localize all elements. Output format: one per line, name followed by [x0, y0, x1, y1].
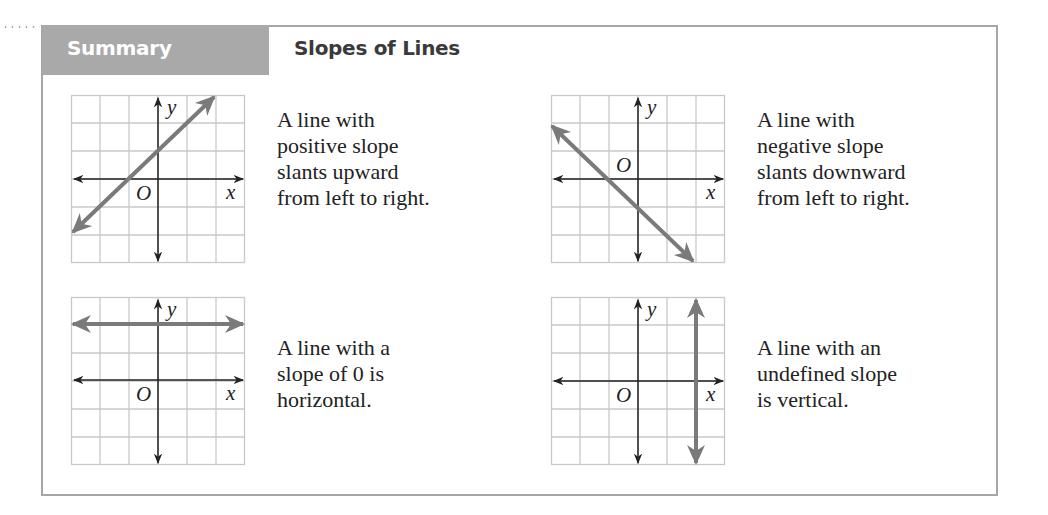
graph-negative-slope: y x O [551, 95, 725, 263]
origin-label: O [136, 382, 151, 407]
graph-undefined-slope: y x O [551, 297, 725, 465]
origin-label: O [616, 153, 631, 178]
description-zero-slope: A line with a slope of 0 is horizontal. [277, 335, 390, 413]
x-axis-label: x [226, 180, 235, 205]
positive-slope-line [73, 97, 214, 232]
description-undefined-slope: A line with an undefined slope is vertic… [757, 335, 897, 413]
x-axis-label: x [226, 381, 235, 406]
y-axis-label: y [167, 297, 176, 322]
description-negative-slope: A line with negative slope slants downwa… [757, 107, 910, 211]
graph-positive-slope: y x O [71, 95, 245, 263]
y-axis-label: y [167, 95, 176, 120]
x-axis-label: x [706, 180, 715, 205]
page-title: Slopes of Lines [294, 36, 460, 60]
summary-tab: Summary [43, 25, 269, 75]
graph-zero-slope: y x O [71, 297, 245, 465]
summary-tab-label: Summary [67, 36, 172, 60]
negative-slope-line [552, 126, 693, 261]
x-axis-label: x [706, 382, 715, 407]
y-axis-label: y [647, 297, 656, 322]
description-positive-slope: A line with positive slope slants upward… [277, 107, 430, 211]
origin-label: O [616, 383, 631, 408]
y-axis-label: y [647, 95, 656, 120]
origin-label: O [136, 181, 151, 206]
dotted-leader [2, 26, 40, 28]
